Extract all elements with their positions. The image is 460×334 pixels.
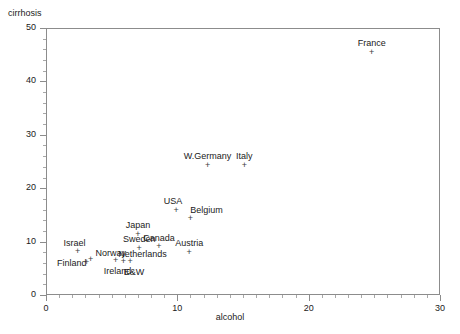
- y-tick: [40, 28, 46, 29]
- x-tick: [414, 295, 415, 298]
- y-tick-label: 20: [0, 182, 36, 192]
- x-tick: [112, 295, 113, 298]
- x-tick: [269, 295, 270, 298]
- data-point-marker: [187, 215, 194, 222]
- x-tick: [230, 295, 231, 298]
- x-tick: [46, 295, 47, 301]
- y-tick: [43, 252, 46, 253]
- x-tick: [125, 295, 126, 298]
- y-tick-label: 0: [0, 289, 36, 299]
- x-tick: [309, 295, 310, 301]
- y-axis-title: cirrhosis: [8, 8, 42, 18]
- y-tick: [43, 231, 46, 232]
- y-tick: [40, 295, 46, 296]
- x-tick: [282, 295, 283, 298]
- y-tick: [43, 284, 46, 285]
- data-point-label: Austria: [175, 238, 203, 248]
- data-point-label: France: [358, 38, 386, 48]
- y-tick: [43, 113, 46, 114]
- data-point-label: Israel: [64, 238, 86, 248]
- data-point-label: USA: [164, 196, 183, 206]
- x-tick: [348, 295, 349, 298]
- x-tick: [177, 295, 178, 301]
- data-point-label: W.Germany: [184, 151, 232, 161]
- x-tick: [335, 295, 336, 298]
- data-point-label: Norway: [95, 248, 126, 258]
- y-tick: [43, 178, 46, 179]
- x-tick: [387, 295, 388, 298]
- y-tick: [40, 188, 46, 189]
- y-tick-label: 40: [0, 75, 36, 85]
- y-tick: [43, 220, 46, 221]
- y-tick: [43, 103, 46, 104]
- data-point-marker: [241, 162, 248, 169]
- y-tick: [43, 263, 46, 264]
- data-point-label: Finland: [57, 258, 87, 268]
- data-point-marker: [127, 258, 134, 265]
- x-tick: [361, 295, 362, 298]
- x-tick: [374, 295, 375, 298]
- data-point-marker: [204, 162, 211, 169]
- x-tick: [401, 295, 402, 298]
- data-point-marker: [186, 249, 193, 256]
- data-point-marker: [368, 49, 375, 56]
- x-tick: [322, 295, 323, 298]
- y-tick: [43, 124, 46, 125]
- x-tick: [151, 295, 152, 298]
- x-tick: [85, 295, 86, 298]
- x-tick: [440, 295, 441, 301]
- y-tick-label: 10: [0, 236, 36, 246]
- x-tick: [204, 295, 205, 298]
- y-tick: [43, 145, 46, 146]
- y-tick: [43, 49, 46, 50]
- y-tick: [43, 210, 46, 211]
- y-tick: [43, 199, 46, 200]
- data-point-label: Italy: [236, 151, 253, 161]
- data-point-label: E&W: [124, 267, 145, 277]
- x-axis-title: alcohol: [0, 312, 460, 322]
- y-tick: [43, 274, 46, 275]
- y-tick: [43, 167, 46, 168]
- data-point-label: Japan: [126, 220, 151, 230]
- data-point-marker: [173, 207, 180, 214]
- x-tick: [138, 295, 139, 298]
- data-point-label: Sweden: [123, 234, 156, 244]
- x-tick: [296, 295, 297, 298]
- data-point-marker: [112, 257, 119, 264]
- x-tick: [164, 295, 165, 298]
- x-tick: [59, 295, 60, 298]
- y-tick: [43, 92, 46, 93]
- data-point-label: Belgium: [190, 205, 223, 215]
- x-tick: [217, 295, 218, 298]
- y-tick: [43, 156, 46, 157]
- y-tick: [43, 39, 46, 40]
- scatter-plot-figure: cirrhosis 010203001020304050 FranceW.Ger…: [0, 0, 460, 334]
- y-tick-label: 30: [0, 129, 36, 139]
- x-tick: [256, 295, 257, 298]
- y-tick: [40, 81, 46, 82]
- y-tick: [40, 135, 46, 136]
- x-tick: [99, 295, 100, 298]
- y-tick-label: 50: [0, 22, 36, 32]
- x-tick: [72, 295, 73, 298]
- x-tick: [190, 295, 191, 298]
- y-tick: [43, 71, 46, 72]
- data-point-marker: [74, 248, 81, 255]
- y-tick: [43, 60, 46, 61]
- x-tick: [243, 295, 244, 298]
- y-tick: [40, 242, 46, 243]
- x-tick: [427, 295, 428, 298]
